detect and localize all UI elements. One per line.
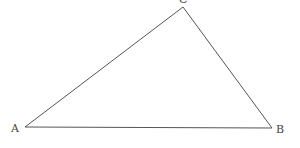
vertex-label-c: C — [179, 0, 187, 6]
vertex-label-b: B — [276, 123, 284, 136]
triangle-diagram: A B C — [0, 0, 300, 148]
triangle-abc — [25, 7, 272, 128]
vertex-label-a: A — [10, 122, 20, 135]
